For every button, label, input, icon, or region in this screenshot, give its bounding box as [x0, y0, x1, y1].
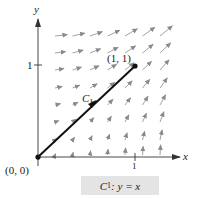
field-arrow	[160, 112, 164, 122]
field-arrow	[73, 137, 75, 140]
end-point-label: (1, 1)	[107, 53, 131, 64]
field-arrow	[125, 98, 131, 105]
plot-canvas	[0, 0, 199, 198]
field-arrow	[160, 130, 162, 140]
field-arrow	[90, 118, 94, 122]
field-arrow	[143, 44, 154, 53]
field-arrow	[125, 29, 137, 36]
field-arrow	[55, 35, 67, 36]
field-arrow	[125, 148, 126, 155]
field-arrow	[160, 95, 166, 105]
field-arrow	[90, 66, 99, 70]
end-point	[132, 63, 137, 68]
field-arrow	[160, 26, 172, 36]
y-tick-label: 1	[27, 60, 33, 71]
caption: C1: y = x	[81, 176, 159, 195]
field-arrow	[143, 113, 147, 122]
field-arrow	[90, 136, 92, 140]
curve-label: C1	[82, 93, 93, 107]
field-arrow	[160, 43, 171, 53]
field-arrow	[160, 60, 169, 70]
field-arrow	[73, 33, 85, 36]
field-arrow	[73, 50, 84, 53]
field-arrow	[73, 85, 80, 88]
field-arrow	[108, 149, 109, 155]
field-arrow	[143, 96, 149, 105]
field-arrow	[73, 67, 82, 70]
field-arrow	[108, 99, 114, 105]
field-arrow	[143, 131, 145, 140]
field-arrow	[143, 79, 150, 88]
x-tick-label: 1	[132, 162, 137, 171]
field-arrow	[160, 145, 161, 155]
field-arrow	[90, 32, 102, 36]
field-arrow	[108, 134, 110, 140]
field-arrow	[55, 121, 59, 122]
field-arrow	[55, 104, 61, 105]
field-arrow	[125, 81, 132, 88]
field-arrow	[125, 115, 129, 122]
caption-equation: : y = x	[111, 180, 140, 192]
field-arrow	[108, 64, 117, 70]
y-axis-label: y	[34, 4, 39, 15]
field-arrow	[90, 84, 97, 88]
field-arrow	[55, 154, 56, 155]
curve-label-subscript: 1	[89, 98, 93, 107]
field-arrow	[55, 87, 62, 88]
field-arrow	[125, 133, 127, 140]
field-arrow	[160, 78, 167, 88]
field-arrow	[143, 146, 144, 155]
start-point	[35, 154, 40, 159]
field-arrow	[90, 151, 91, 155]
field-arrow	[143, 27, 155, 36]
field-arrow	[108, 30, 120, 36]
field-arrow	[90, 49, 101, 53]
x-axis-label: x	[183, 151, 188, 162]
origin-label: (0, 0)	[5, 165, 29, 176]
curve-c1	[38, 66, 135, 157]
vector-field-figure: y x 1 1 (0, 0) (1, 1) C1 C1: y = x	[0, 0, 199, 198]
field-arrow	[73, 102, 79, 105]
caption-curve-name: C	[100, 180, 107, 192]
field-arrow	[55, 52, 66, 53]
vector-field-arrows	[55, 26, 172, 155]
field-arrow	[73, 152, 74, 155]
field-arrow	[55, 69, 64, 70]
field-arrow	[108, 116, 112, 122]
field-arrow	[143, 61, 152, 70]
